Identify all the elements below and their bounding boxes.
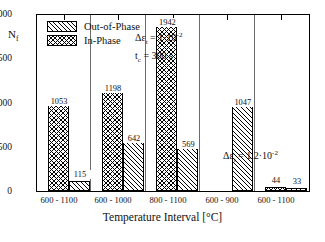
annotation-strain2-exp: -2	[272, 149, 278, 157]
bar-value-g1-out-of-phase: 115	[69, 170, 91, 179]
y-tick-label-500: 500	[0, 143, 12, 153]
y-axis-title: Nf	[8, 29, 18, 44]
y-tick-label-0: 0	[0, 187, 12, 197]
annotation-time-eq: = 300 s	[141, 50, 173, 61]
annotation-strain2-eq: = 1.2·10	[236, 150, 272, 161]
bar-g5-out-of-phase[interactable]	[286, 188, 307, 191]
x-tick-label-4: 600 - 900	[193, 196, 251, 205]
bar-g4-out-of-phase[interactable]	[232, 98, 253, 191]
annotation-strain-range-last: Δεt = 1.2·10-2	[223, 147, 278, 167]
x-tick-label-1: 600 - 1100	[30, 196, 88, 205]
y-tick-label-1500: 1500	[0, 54, 12, 64]
x-axis-title: Temperature Interval [°C]	[0, 211, 325, 223]
bar-g2-in-phase[interactable]	[102, 84, 123, 191]
annotation-strain2-symbol: Δε	[223, 150, 234, 161]
bar-g5-in-phase[interactable]	[265, 187, 286, 191]
bar-value-g2-in-phase: 1198	[102, 84, 124, 93]
bar-g1-out-of-phase[interactable]	[69, 181, 90, 191]
x-tick-mark-top-4	[227, 15, 228, 20]
y-tick-label-2000: 2000	[0, 10, 12, 20]
group-separator-3	[199, 15, 200, 191]
bar-chart: Nf 2000 1500 1000 500 0 1053 115 1198 64…	[0, 0, 325, 242]
legend-swatch-out-of-phase	[47, 21, 77, 32]
bar-value-g3-out-of-phase: 569	[177, 140, 199, 149]
annotation-strain-exp: -2	[177, 31, 183, 39]
legend-label-out-of-phase: Out-of-Phase	[84, 21, 140, 32]
bar-value-g3-in-phase: 1942	[156, 18, 178, 27]
annotation-strain-range-main: Δεt = 1·10-2	[135, 29, 182, 49]
legend-item-in-phase: In-Phase	[47, 35, 140, 46]
plot-area: 1053 115 1198 642 1942 569 1047 44 33 Δε…	[36, 14, 310, 192]
bar-value-g2-out-of-phase: 642	[123, 134, 145, 143]
x-tick-mark-top-2	[118, 15, 119, 20]
x-tick-mark-top-5	[281, 15, 282, 20]
annotation-strain-eq: = 1·10	[148, 32, 177, 43]
y-tick-label-1000: 1000	[0, 99, 12, 109]
chart-legend: Out-of-Phase In-Phase	[47, 21, 140, 49]
bar-value-g1-in-phase: 1053	[48, 97, 70, 106]
legend-swatch-in-phase	[47, 35, 77, 46]
legend-item-out-of-phase: Out-of-Phase	[47, 21, 140, 32]
annotation-hold-time: tc = 300 s	[135, 49, 173, 67]
x-tick-label-2: 600 - 1000	[84, 196, 142, 205]
y-axis-title-sub: f	[16, 34, 19, 43]
bar-value-g5-out-of-phase: 33	[286, 177, 308, 186]
x-tick-label-3: 800 - 1100	[139, 196, 197, 205]
x-tick-mark-top-1	[64, 15, 65, 20]
bar-value-g5-in-phase: 44	[265, 176, 287, 185]
legend-label-in-phase: In-Phase	[84, 35, 121, 46]
y-axis-title-main: N	[8, 28, 16, 40]
x-tick-label-5: 600 - 1100	[247, 196, 305, 205]
bar-g1-in-phase[interactable]	[48, 97, 69, 191]
bar-value-g4-out-of-phase: 1047	[232, 98, 254, 107]
